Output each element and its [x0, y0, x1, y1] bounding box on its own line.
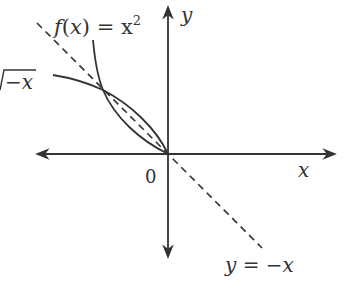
x-axis-label: x	[298, 158, 309, 182]
origin-label: 0	[145, 166, 156, 187]
function-graph: f(x) = x2 −x y x 0 y = −x	[0, 0, 355, 292]
sqrt-neg-x-label: −x	[0, 70, 36, 94]
svg-text:f(x) = x2: f(x) = x2	[52, 13, 141, 39]
line-y-neg-x	[37, 23, 262, 248]
sqrt-neg-x-curve	[53, 75, 168, 154]
parabola-label: f(x) = x2	[52, 13, 141, 39]
line-label: y = −x	[224, 253, 294, 277]
parabola-curve	[93, 40, 168, 154]
y-axis-label: y	[180, 3, 193, 27]
svg-text:−x: −x	[5, 70, 33, 94]
